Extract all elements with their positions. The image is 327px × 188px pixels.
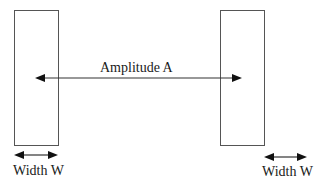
right-width-double-arrow-icon [264, 153, 307, 161]
amplitude-double-arrow-icon [35, 74, 242, 82]
diagram-canvas: Amplitude A Width W Width W [0, 0, 327, 188]
amplitude-label: Amplitude A [100, 61, 173, 75]
left-width-label: Width W [13, 164, 64, 178]
arrows-layer [0, 0, 327, 188]
right-width-label: Width W [262, 165, 313, 179]
left-width-double-arrow-icon [14, 151, 58, 159]
